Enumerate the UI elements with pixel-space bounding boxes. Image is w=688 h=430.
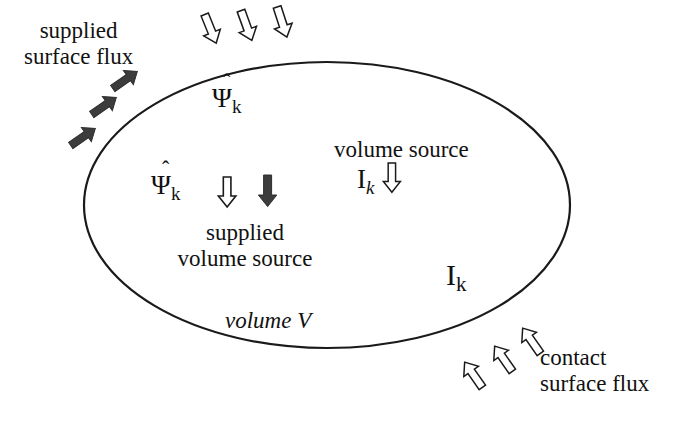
label-supplied-volume-source-line1: supplied [120, 220, 370, 246]
label-supplied-surface-flux-line2: surface flux [24, 44, 133, 70]
diagram-canvas: supplied surface flux Ψˆk Ψˆk supplied v… [0, 0, 688, 430]
label-volume-source: volume source [334, 137, 469, 163]
symbol-psi-hat-mid-hat: ˆ [162, 159, 169, 181]
symbol-psi-hat-top-subscript: k [232, 96, 241, 117]
supplied-surface-flux-solid-arrows [66, 64, 143, 153]
label-supplied-volume-source: supplied volume source [120, 220, 370, 272]
symbol-psi-hat-top-hat: ˆ [223, 72, 230, 94]
supplied-volume-source-arrows [218, 175, 276, 207]
symbol-ik-italic-base: I [357, 164, 366, 195]
volume-source-arrow [383, 163, 400, 192]
supplied-surface-flux-hollow-arrows [196, 4, 295, 46]
supplied-volume-source-solid-arrow [258, 175, 276, 207]
label-contact-surface-flux-line1: contact [540, 345, 649, 371]
label-supplied-surface-flux: supplied surface flux [24, 18, 133, 70]
supplied-volume-source-hollow-arrow [218, 177, 235, 207]
contact-surface-flux-arrows [457, 323, 547, 393]
symbol-ik-upright-base: I [446, 258, 456, 292]
label-supplied-volume-source-line2: volume source [120, 246, 370, 272]
symbol-ik-italic-subscript: k [366, 177, 374, 198]
symbol-i-k-upright: Ik [446, 258, 467, 297]
label-contact-surface-flux: contact surface flux [540, 345, 649, 397]
volume-boundary-ellipse [84, 62, 570, 348]
symbol-ik-upright-subscript: k [456, 272, 467, 296]
symbol-psi-hat-k-mid: Ψˆk [151, 170, 180, 205]
label-volume-v: volume V [225, 308, 311, 334]
symbol-psi-hat-mid-subscript: k [171, 183, 180, 204]
label-supplied-surface-flux-line1: supplied [24, 18, 133, 44]
label-contact-surface-flux-line2: surface flux [540, 371, 649, 397]
symbol-i-k-italic: Ik [357, 164, 374, 199]
symbol-psi-hat-k-top: Ψˆk [212, 83, 241, 118]
